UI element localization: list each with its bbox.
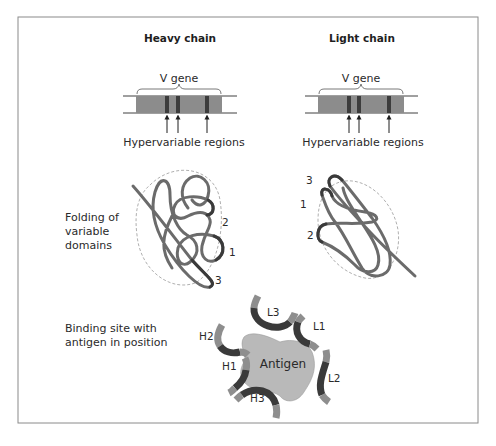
cdr-label-l2: L2 (328, 372, 341, 384)
light-hypervariable-loop-3 (329, 176, 342, 186)
heavy-hypervariable-region-2 (176, 96, 180, 113)
antigen-label: Antigen (260, 357, 306, 371)
heavy-hypervariable-region-1 (165, 96, 169, 113)
cdr-label-l3: L3 (267, 306, 280, 318)
cdr-label-l1: L1 (313, 320, 326, 332)
binding-label-line-1: Binding site with (65, 322, 157, 335)
light-chain-folded-domain: 3 1 2 (300, 174, 415, 278)
light-v-gene-label: V gene (342, 72, 381, 85)
binding-label-line-2: antigen in position (65, 336, 167, 349)
heavy-chain-title: Heavy chain (144, 32, 216, 44)
cdr-label-h2: H2 (199, 330, 214, 342)
heavy-loop-number-2: 2 (222, 216, 229, 228)
heavy-v-gene-label: V gene (160, 72, 199, 85)
light-hypervariable-loop-1 (322, 189, 332, 196)
heavy-chain-gene-diagram: V gene Hypervariable regions (123, 72, 245, 149)
light-hypervariable-region-1 (347, 96, 351, 113)
light-chain-gene-diagram: V gene Hypervariable regions (302, 72, 424, 149)
light-hypervariable-region-3 (387, 96, 391, 113)
light-hypervariable-region-2 (357, 96, 361, 113)
light-loop-number-2: 2 (307, 229, 314, 241)
light-loop-number-3: 3 (306, 174, 313, 186)
folding-label-line-2: variable (65, 225, 110, 238)
folding-label-line-3: domains (65, 239, 112, 252)
cdr-label-h1: H1 (222, 360, 237, 372)
light-loop-number-1: 1 (300, 198, 307, 210)
heavy-hypervariable-loop-1 (214, 236, 223, 260)
cdr-label-h3: H3 (250, 392, 265, 404)
light-chain-title: Light chain (329, 32, 395, 44)
folding-label-line-1: Folding of (65, 211, 120, 224)
binding-site-diagram: Antigen (199, 296, 341, 418)
light-hypervariable-loop-2 (318, 224, 326, 242)
heavy-polypeptide-strand (133, 176, 223, 287)
light-polypeptide-strand (318, 176, 415, 276)
heavy-loop-number-1: 1 (229, 246, 236, 258)
heavy-hypervariable-loop-2 (207, 200, 213, 215)
antibody-variable-domain-figure: Heavy chain Light chain V gene Hypervari… (0, 0, 496, 446)
heavy-hypervariable-region-3 (205, 96, 209, 113)
folding-row-label: Folding of variable domains (65, 211, 122, 252)
light-v-gene-brace (319, 84, 403, 94)
heavy-hypervariable-regions-label: Hypervariable regions (123, 136, 245, 149)
light-hypervariable-regions-label: Hypervariable regions (302, 136, 424, 149)
heavy-v-gene-brace (137, 84, 221, 94)
heavy-loop-number-3: 3 (215, 274, 222, 286)
heavy-chain-folded-domain: 2 1 3 (133, 170, 236, 287)
binding-row-label: Binding site with antigen in position (65, 322, 167, 349)
